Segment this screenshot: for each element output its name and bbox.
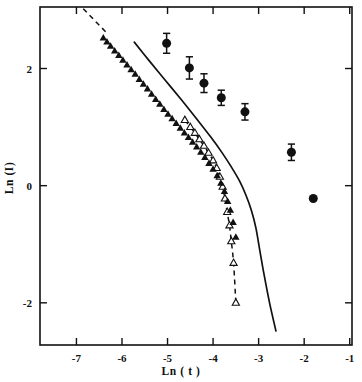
x-tick-label-6: -1 bbox=[345, 352, 354, 364]
filled-circle-marker bbox=[199, 79, 208, 88]
filled-circle-marker bbox=[287, 148, 296, 157]
filled-circle-marker bbox=[309, 194, 318, 203]
filled-circle-marker bbox=[185, 63, 194, 72]
x-tick-label-1: -6 bbox=[117, 352, 127, 364]
y-tick-label-2: -2 bbox=[23, 297, 33, 309]
filled-circle-marker bbox=[217, 93, 226, 102]
y-tick-label-0: 2 bbox=[27, 63, 33, 75]
x-tick-label-2: -5 bbox=[163, 352, 173, 364]
x-tick-label-3: -4 bbox=[208, 352, 218, 364]
filled-circle-marker bbox=[162, 39, 171, 48]
figure-background bbox=[0, 0, 362, 382]
y-axis-title: Ln (I) bbox=[3, 162, 16, 195]
x-axis-title: Ln ( t ) bbox=[162, 365, 201, 378]
y-tick-label-1: 0 bbox=[27, 180, 33, 192]
plot-canvas: -7-6-5-4-3-2-1 20-2 Ln ( t ) Ln (I) bbox=[0, 0, 362, 382]
x-tick-label-0: -7 bbox=[72, 352, 82, 364]
filled-circle-marker bbox=[240, 107, 249, 116]
x-tick-label-4: -3 bbox=[254, 352, 264, 364]
x-tick-label-5: -2 bbox=[300, 352, 310, 364]
scatter-plot-figure: -7-6-5-4-3-2-1 20-2 Ln ( t ) Ln (I) bbox=[0, 0, 362, 382]
